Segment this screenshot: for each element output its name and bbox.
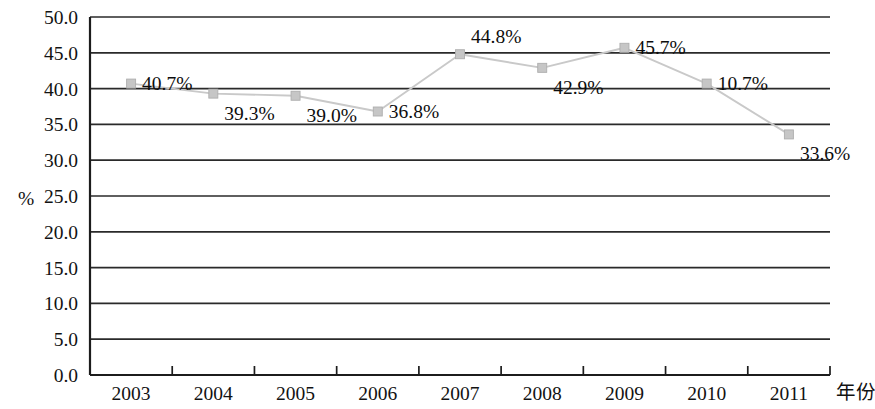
data-point-label: 39.3%: [224, 103, 274, 124]
data-point-label: 44.8%: [471, 26, 521, 47]
data-point-marker: [373, 107, 382, 116]
y-tick-label: 40.0: [44, 79, 78, 100]
x-tick-label: 2003: [112, 383, 151, 404]
y-tick-label: 0.0: [54, 365, 78, 386]
data-point-marker: [538, 63, 547, 72]
chart-container: 50.045.040.035.030.025.020.015.010.05.00…: [0, 0, 875, 409]
y-tick-label: 50.0: [44, 7, 78, 28]
data-point-label: 10.7%: [718, 73, 768, 94]
x-tick-label: 2008: [523, 383, 562, 404]
y-tick-label: 20.0: [44, 222, 78, 243]
data-point-label: 36.8%: [389, 101, 439, 122]
y-axis-tick-labels: 50.045.040.035.030.025.020.015.010.05.00…: [44, 7, 78, 386]
y-tick-label: 5.0: [54, 329, 78, 350]
x-tick-label: 2011: [770, 383, 808, 404]
y-axis-title: %: [18, 188, 34, 209]
y-tick-label: 10.0: [44, 293, 78, 314]
x-axis-tick-labels: 200320042005200620072008200920102011: [112, 383, 808, 404]
data-point-marker: [702, 79, 711, 88]
y-tick-label: 35.0: [44, 114, 78, 135]
line-chart: 50.045.040.035.030.025.020.015.010.05.00…: [0, 0, 875, 409]
data-point-label: 40.7%: [142, 73, 192, 94]
data-point-marker: [456, 50, 465, 59]
x-tick-label: 2007: [441, 383, 480, 404]
x-tick-label: 2004: [194, 383, 233, 404]
data-point-label: 45.7%: [635, 37, 685, 58]
gridlines: [90, 17, 830, 339]
y-tick-label: 25.0: [44, 186, 78, 207]
data-point-marker: [784, 130, 793, 139]
x-axis-title: 年份: [836, 382, 875, 403]
data-point-marker: [127, 79, 136, 88]
x-tick-label: 2010: [687, 383, 726, 404]
y-tick-label: 30.0: [44, 150, 78, 171]
data-point-marker: [209, 89, 218, 98]
x-axis-ticks: [90, 366, 830, 375]
y-tick-label: 15.0: [44, 258, 78, 279]
x-tick-label: 2005: [276, 383, 315, 404]
x-tick-label: 2009: [605, 383, 644, 404]
y-tick-label: 45.0: [44, 43, 78, 64]
data-point-marker: [291, 91, 300, 100]
data-point-marker: [620, 43, 629, 52]
data-point-label: 33.6%: [800, 143, 850, 164]
data-point-label: 42.9%: [553, 77, 603, 98]
data-point-label: 39.0%: [307, 105, 357, 126]
x-tick-label: 2006: [358, 383, 397, 404]
